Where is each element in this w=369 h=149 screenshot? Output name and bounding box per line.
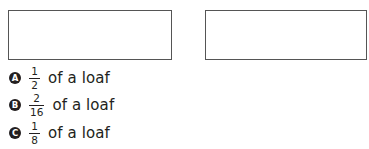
fraction-denominator: 8: [30, 134, 39, 146]
option-b[interactable]: B 2 16 of a loaf: [9, 91, 114, 119]
option-b-fraction: 2 16: [29, 93, 44, 117]
option-a-fraction: 1 2: [29, 66, 40, 90]
option-c-label: of a loaf: [48, 126, 110, 141]
fraction-denominator: 2: [30, 79, 39, 91]
fraction-numerator: 2: [32, 93, 41, 105]
option-a-letter-badge-icon: A: [9, 72, 21, 84]
option-b-letter-badge-icon: B: [9, 99, 21, 111]
fraction-numerator: 1: [30, 121, 39, 133]
option-c[interactable]: C 1 8 of a loaf: [9, 119, 110, 147]
fraction-denominator: 16: [29, 106, 44, 118]
option-a[interactable]: A 1 2 of a loaf: [9, 64, 110, 92]
option-c-fraction: 1 8: [29, 121, 40, 145]
option-c-letter-badge-icon: C: [9, 127, 21, 139]
option-a-label: of a loaf: [48, 71, 110, 86]
fraction-numerator: 1: [30, 66, 39, 78]
answer-box-2: [205, 10, 367, 60]
option-b-label: of a loaf: [52, 98, 114, 113]
answer-box-1: [8, 10, 172, 60]
